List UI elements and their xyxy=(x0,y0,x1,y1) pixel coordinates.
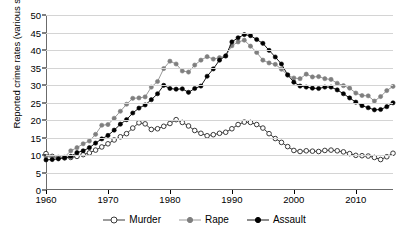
y-tick-label: 50 xyxy=(30,10,41,21)
data-point xyxy=(87,139,91,143)
data-point xyxy=(341,92,345,96)
data-point xyxy=(106,142,111,147)
data-point xyxy=(304,149,309,154)
gridline xyxy=(46,68,393,69)
data-point xyxy=(348,96,352,100)
data-point xyxy=(267,61,271,65)
data-point xyxy=(385,89,389,93)
data-point xyxy=(348,86,352,90)
x-tick-label: 2000 xyxy=(283,194,304,205)
data-point xyxy=(304,72,308,76)
data-point xyxy=(174,87,178,91)
data-point xyxy=(180,87,184,91)
data-point xyxy=(360,93,364,97)
data-point xyxy=(379,94,383,98)
data-point xyxy=(217,131,222,136)
data-point xyxy=(205,55,209,59)
data-point xyxy=(279,140,284,145)
data-point xyxy=(168,86,172,90)
data-point xyxy=(155,92,159,96)
y-tick-label: 20 xyxy=(30,115,41,126)
legend-item-murder[interactable]: Murder xyxy=(103,214,161,225)
legend-item-rape[interactable]: Rape xyxy=(179,214,229,225)
x-tick-label: 1980 xyxy=(159,194,180,205)
data-point xyxy=(273,55,277,59)
data-point xyxy=(193,86,197,90)
black-dot-marker-icon xyxy=(247,215,269,225)
data-point xyxy=(378,157,383,162)
data-point xyxy=(279,62,283,66)
data-point xyxy=(329,148,334,153)
gridline xyxy=(46,120,393,121)
legend-label-assault: Assault xyxy=(273,214,306,225)
chart-legend: Murder Rape Assault xyxy=(0,214,409,225)
gridline xyxy=(46,33,393,34)
data-point xyxy=(292,76,296,80)
data-point xyxy=(56,157,60,161)
data-point xyxy=(354,91,358,95)
data-point xyxy=(310,149,315,154)
data-point xyxy=(93,148,98,153)
data-point xyxy=(149,127,154,132)
data-point xyxy=(112,128,116,132)
data-point xyxy=(87,146,91,150)
data-point xyxy=(131,96,135,100)
data-point xyxy=(335,149,340,154)
data-point xyxy=(379,107,383,111)
data-point xyxy=(255,37,259,41)
data-point xyxy=(81,142,85,146)
data-point xyxy=(248,34,252,38)
data-point xyxy=(236,36,240,40)
data-point xyxy=(316,149,321,154)
legend-item-assault[interactable]: Assault xyxy=(247,214,306,225)
plot-area: 0510152025303540455019601970198019902000… xyxy=(46,15,393,190)
gray-dot-marker-icon xyxy=(179,215,201,225)
legend-label-murder: Murder xyxy=(129,214,161,225)
data-point xyxy=(192,128,197,133)
data-point xyxy=(310,75,314,79)
data-point xyxy=(267,131,272,136)
data-point xyxy=(168,121,173,126)
series-line xyxy=(46,120,393,160)
data-point xyxy=(230,40,234,44)
data-point xyxy=(242,38,246,42)
data-point xyxy=(298,149,303,154)
data-point xyxy=(292,80,296,84)
x-tick-label: 1990 xyxy=(221,194,242,205)
legend-label-rape: Rape xyxy=(205,214,229,225)
data-point xyxy=(211,57,215,61)
data-point xyxy=(69,149,73,153)
data-point xyxy=(317,75,321,79)
data-point xyxy=(335,88,339,92)
data-point xyxy=(323,148,328,153)
data-point xyxy=(236,40,240,44)
data-point xyxy=(137,96,141,100)
data-point xyxy=(360,104,364,108)
gridline xyxy=(46,50,393,51)
data-point xyxy=(99,145,104,150)
data-point xyxy=(366,106,370,110)
data-point xyxy=(137,121,142,126)
data-point xyxy=(100,123,104,127)
data-point xyxy=(230,126,235,131)
y-tick-mark xyxy=(42,67,46,68)
data-point xyxy=(261,126,266,131)
data-point xyxy=(385,105,389,109)
data-point xyxy=(341,150,346,155)
series-assault xyxy=(44,33,395,162)
data-point xyxy=(44,158,48,162)
data-point xyxy=(137,106,141,110)
y-tick-label: 35 xyxy=(30,62,41,73)
data-point xyxy=(131,111,135,115)
data-point xyxy=(118,109,122,113)
data-point xyxy=(217,58,221,62)
data-point xyxy=(286,73,290,77)
y-tick-label: 5 xyxy=(36,167,41,178)
y-tick-mark xyxy=(42,120,46,121)
data-point xyxy=(174,62,178,66)
data-point xyxy=(329,77,333,81)
data-point xyxy=(211,132,216,137)
x-tick-label: 1970 xyxy=(97,194,118,205)
y-tick-mark xyxy=(42,50,46,51)
series-line xyxy=(46,35,393,160)
